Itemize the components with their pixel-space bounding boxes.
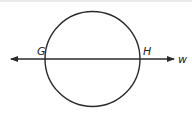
label-point-h: H <box>143 45 151 58</box>
label-line-w: w <box>178 53 187 66</box>
label-point-g: G <box>37 45 46 58</box>
circle-line-diagram: G H w <box>0 0 192 124</box>
